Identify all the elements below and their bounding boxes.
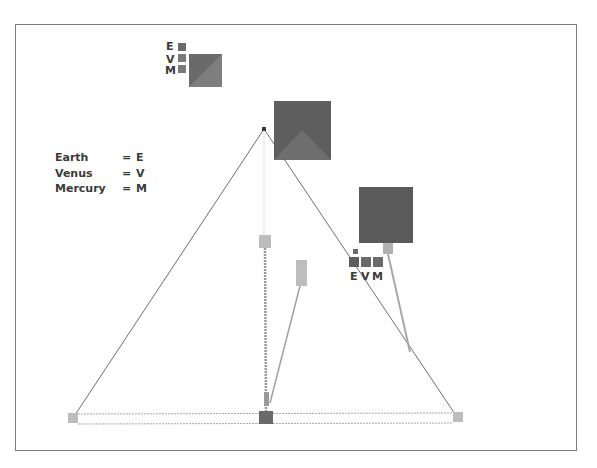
- key-row-venus: Venus = V: [55, 166, 147, 182]
- right-block-connector: [383, 243, 393, 254]
- key-row-mercury: Mercury = M: [55, 181, 147, 197]
- top-legend-label-m: M: [165, 64, 176, 77]
- base-center-block: [259, 411, 273, 424]
- key-abbr: V: [136, 166, 145, 182]
- key-equals: =: [122, 181, 136, 197]
- key-name: Mercury: [55, 181, 122, 197]
- venus-square-top: [178, 54, 186, 62]
- mercury-square-top: [178, 65, 186, 73]
- base-left-block: [68, 413, 78, 423]
- slanted-support-line: [270, 286, 300, 403]
- key-abbr: M: [136, 181, 147, 197]
- earth-square-top: [178, 43, 186, 51]
- planet-alignment-diagram: [0, 0, 597, 468]
- apex-point: [262, 127, 266, 131]
- key-equals: =: [122, 150, 136, 166]
- key-name: Venus: [55, 166, 122, 182]
- venus-square-right: [361, 257, 371, 267]
- right-legend-label-e: E: [350, 270, 358, 283]
- key-name: Earth: [55, 150, 122, 166]
- right-support-line: [388, 254, 410, 352]
- right-legend-tiny-marker: [353, 249, 358, 254]
- earth-square-right: [349, 257, 359, 267]
- key-equals: =: [122, 166, 136, 182]
- slanted-small-rect: [296, 260, 307, 286]
- center-small-marker: [264, 392, 269, 406]
- vertical-small-rect: [259, 235, 271, 248]
- mercury-square-right: [373, 257, 383, 267]
- right-legend-label-m: M: [372, 270, 383, 283]
- right-legend-label-v: V: [361, 270, 370, 283]
- right-large-block: [359, 187, 413, 243]
- key-row-earth: Earth = E: [55, 150, 147, 166]
- key-abbr: E: [136, 150, 144, 166]
- planet-key: Earth = E Venus = V Mercury = M: [55, 150, 147, 197]
- vertical-support-line: [265, 248, 266, 412]
- top-legend-label-e: E: [166, 40, 174, 53]
- base-right-block: [453, 412, 463, 422]
